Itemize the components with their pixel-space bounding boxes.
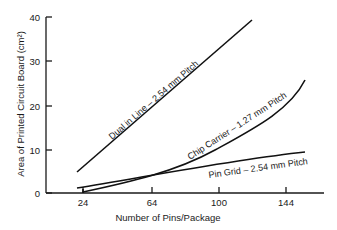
x-tick-label: 24 — [78, 197, 89, 208]
x-tick-label: 144 — [278, 197, 294, 208]
x-axis-title: Number of Pins/Package — [115, 212, 220, 223]
y-tick-label: 0 — [35, 188, 40, 199]
y-tick-label: 10 — [29, 145, 40, 156]
y-axis-title: Area of Printed Circuit Board (cm²) — [15, 31, 26, 177]
x-ticks: 24 64 100 144 — [78, 187, 294, 208]
chip-carrier-label: Chip Carrier – 1.27 mm Pitch — [186, 90, 289, 162]
y-tick-label: 40 — [29, 12, 40, 23]
pin-grid-label: Pin Grid – 2.54 mm Pitch — [208, 156, 308, 180]
y-tick-label: 30 — [29, 56, 40, 67]
dual-in-line-label: Dual in Line – 2.54 mm Pitch — [107, 58, 200, 141]
chart: 0 10 20 30 40 24 64 100 144 Number of Pi… — [0, 0, 337, 230]
x-tick-label: 100 — [211, 197, 227, 208]
curve-labels: Dual in Line – 2.54 mm Pitch Chip Carrie… — [107, 58, 309, 180]
y-ticks: 0 10 20 30 40 — [29, 12, 52, 199]
y-tick-label: 20 — [29, 101, 40, 112]
x-tick-label: 64 — [147, 197, 158, 208]
